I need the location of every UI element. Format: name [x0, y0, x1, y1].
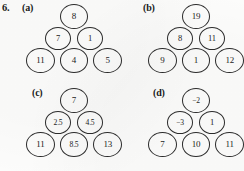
node-b-1-1[interactable]: 11	[199, 27, 225, 50]
node-b-2-2[interactable]: 12	[215, 48, 244, 73]
panel-a-row-0: 8	[26, 4, 122, 29]
node-d-1-0[interactable]: −3	[167, 111, 193, 134]
node-a-2-1[interactable]: 4	[60, 48, 89, 73]
panel-a-pyramid: 8 7 1 11 4 5	[26, 4, 122, 73]
panel-d-row-1: −3 1	[148, 111, 244, 134]
panel-b: (b) 19 8 11 9 1 12	[122, 0, 244, 86]
panel-d-pyramid: −2 −3 1 7 10 11	[148, 88, 244, 157]
panel-c-pyramid: 7 2.5 4.5 11 8.5 13	[26, 88, 122, 157]
panel-c-row-2: 11 8.5 13	[26, 132, 122, 157]
panel-a: (a) 8 7 1 11 4 5	[0, 0, 122, 86]
node-c-1-1[interactable]: 4.5	[77, 111, 103, 134]
panel-c-row-1: 2.5 4.5	[26, 111, 122, 134]
panel-d-row-0: −2	[148, 88, 244, 113]
node-b-0-0[interactable]: 19	[182, 4, 210, 29]
node-d-2-1[interactable]: 10	[182, 132, 211, 157]
panel-d-row-2: 7 10 11	[148, 132, 244, 157]
panel-d: (d) −2 −3 1 7 10 11	[122, 85, 244, 171]
node-c-2-2[interactable]: 13	[93, 132, 122, 157]
node-a-2-2[interactable]: 5	[93, 48, 122, 73]
panel-b-row-1: 8 11	[148, 27, 244, 50]
panel-c-row-0: 7	[26, 88, 122, 113]
node-a-1-0[interactable]: 7	[45, 27, 71, 50]
node-c-2-1[interactable]: 8.5	[60, 132, 89, 157]
panel-a-row-1: 7 1	[26, 27, 122, 50]
node-a-0-0[interactable]: 8	[60, 4, 88, 29]
node-c-0-0[interactable]: 7	[60, 88, 88, 113]
worksheet-page: 6. (a) 8 7 1 11 4 5 (b) 19 8	[0, 0, 244, 171]
node-c-2-0[interactable]: 11	[26, 132, 55, 157]
node-b-2-0[interactable]: 9	[148, 48, 177, 73]
node-d-2-2[interactable]: 11	[215, 132, 244, 157]
panel-a-row-2: 11 4 5	[26, 48, 122, 73]
node-a-2-0[interactable]: 11	[26, 48, 55, 73]
node-d-0-0[interactable]: −2	[182, 88, 210, 113]
node-c-1-0[interactable]: 2.5	[45, 111, 71, 134]
panel-b-row-0: 19	[148, 4, 244, 29]
node-b-1-0[interactable]: 8	[167, 27, 193, 50]
node-b-2-1[interactable]: 1	[182, 48, 211, 73]
panel-b-row-2: 9 1 12	[148, 48, 244, 73]
panel-b-pyramid: 19 8 11 9 1 12	[148, 4, 244, 73]
node-d-1-1[interactable]: 1	[199, 111, 225, 134]
panel-c: (c) 7 2.5 4.5 11 8.5 13	[0, 85, 122, 171]
node-d-2-0[interactable]: 7	[148, 132, 177, 157]
node-a-1-1[interactable]: 1	[77, 27, 103, 50]
